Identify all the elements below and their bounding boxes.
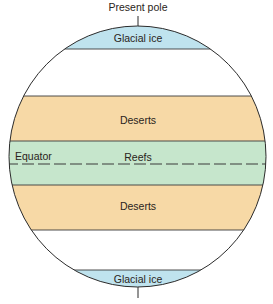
equator-label: Equator bbox=[15, 150, 52, 162]
present-pole-label: Present pole bbox=[109, 1, 168, 13]
reefs-label: Reefs bbox=[124, 151, 151, 163]
climate-zones-diagram: Present pole Glacial ice Deserts Reefs E… bbox=[0, 0, 273, 304]
deserts-south-label: Deserts bbox=[120, 200, 156, 212]
glacial-ice-north-label: Glacial ice bbox=[114, 32, 163, 44]
band-temperate-south bbox=[0, 230, 273, 270]
deserts-north-label: Deserts bbox=[120, 114, 156, 126]
glacial-ice-south-label: Glacial ice bbox=[114, 273, 163, 285]
band-reefs bbox=[0, 141, 273, 185]
band-temperate-north bbox=[0, 49, 273, 96]
